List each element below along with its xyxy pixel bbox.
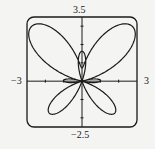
y-max-label: 3.5 bbox=[73, 5, 86, 15]
x-max-label: 3 bbox=[144, 76, 149, 86]
y-min-label: −2.5 bbox=[71, 130, 89, 140]
x-min-label: −3 bbox=[11, 76, 22, 86]
polar-plot bbox=[0, 0, 155, 149]
